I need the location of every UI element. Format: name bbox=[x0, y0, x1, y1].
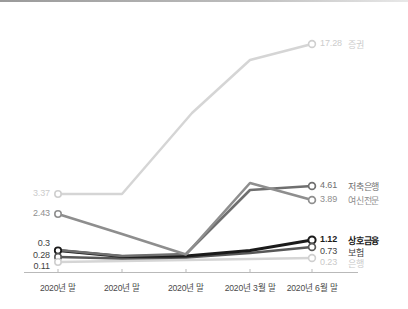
chart-container: 3.37 2.43 0.3 0.28 0.11 17.28 증권 4.61 저축… bbox=[0, 0, 408, 309]
marker-end-insurance bbox=[309, 244, 316, 251]
series-label-securities: 증권 bbox=[348, 38, 364, 51]
series-label-credit-specialized: 여신전문 bbox=[348, 194, 379, 207]
end-value-mutual-finance: 1.12 bbox=[320, 234, 337, 244]
x-axis-label-4: 2020년 6월 말 bbox=[272, 281, 352, 293]
x-axis-label-0: 2020년 말 bbox=[22, 281, 94, 293]
start-label-securities: 3.37 bbox=[4, 188, 50, 198]
series-label-bank: 은행 bbox=[348, 257, 364, 270]
marker-end-bank bbox=[309, 255, 316, 262]
marker-end-savings-bank bbox=[309, 183, 316, 190]
series-line-securities bbox=[58, 44, 312, 194]
marker-start-securities bbox=[55, 191, 61, 197]
start-label-credit-specialized: 2.43 bbox=[4, 208, 50, 218]
line-chart-plot bbox=[0, 0, 408, 309]
marker-end-mutual-finance bbox=[308, 236, 315, 243]
end-value-securities: 17.28 bbox=[320, 38, 342, 48]
end-value-credit-specialized: 3.89 bbox=[320, 194, 337, 204]
series-label-savings-bank: 저축은행 bbox=[348, 180, 379, 193]
marker-end-securities bbox=[309, 41, 316, 48]
marker-start-bank bbox=[55, 259, 61, 265]
start-label-insurance: 0.28 bbox=[4, 250, 50, 260]
start-label-mutual-finance: 0.3 bbox=[4, 238, 50, 248]
end-value-savings-bank: 4.61 bbox=[320, 180, 337, 190]
marker-start-mutual-finance bbox=[55, 247, 61, 253]
end-value-insurance: 0.73 bbox=[320, 246, 337, 256]
end-value-bank: 0.23 bbox=[320, 257, 337, 267]
marker-end-credit-specialized bbox=[309, 197, 316, 204]
x-axis-label-1: 2020년 말 bbox=[86, 281, 158, 293]
marker-start-credit-specialized bbox=[55, 211, 61, 217]
start-label-bank: 0.11 bbox=[4, 261, 50, 271]
